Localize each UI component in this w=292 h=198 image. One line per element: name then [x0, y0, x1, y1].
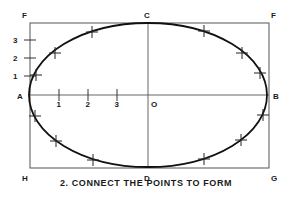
point-label-b: B — [273, 92, 279, 101]
point-label-f-right: F — [271, 11, 276, 20]
point-label-f-left: F — [22, 11, 27, 20]
plotted-point-cross-icon — [49, 47, 61, 59]
major-axis-divisions: 123 — [57, 89, 120, 109]
division-label: 2 — [86, 100, 91, 109]
plotted-point-cross-icon — [86, 26, 98, 38]
figure-caption: 2. CONNECT THE POINTS TO FORM — [0, 178, 292, 188]
division-label: 1 — [13, 72, 18, 81]
division-label: 2 — [13, 54, 18, 63]
division-label: 3 — [13, 36, 18, 45]
point-label-c: C — [144, 11, 150, 20]
ellipse-construction-diagram: 321 123 FCFABHDG O 2. CONNECT THE POINTS… — [0, 0, 292, 198]
plotted-point-cross-icon — [198, 25, 210, 37]
plotted-point-cross-icon — [257, 109, 269, 121]
point-label-a: A — [17, 92, 23, 101]
division-label: 1 — [57, 100, 62, 109]
center-label-o: O — [151, 100, 157, 109]
plotted-point-cross-icon — [198, 153, 210, 165]
left-edge-divisions: 321 — [13, 36, 36, 81]
diagram-canvas: 321 123 FCFABHDG O — [0, 0, 292, 198]
division-label: 3 — [115, 100, 120, 109]
plotted-point-cross-icon — [87, 154, 99, 166]
plotted-point-cross-icon — [29, 110, 41, 122]
